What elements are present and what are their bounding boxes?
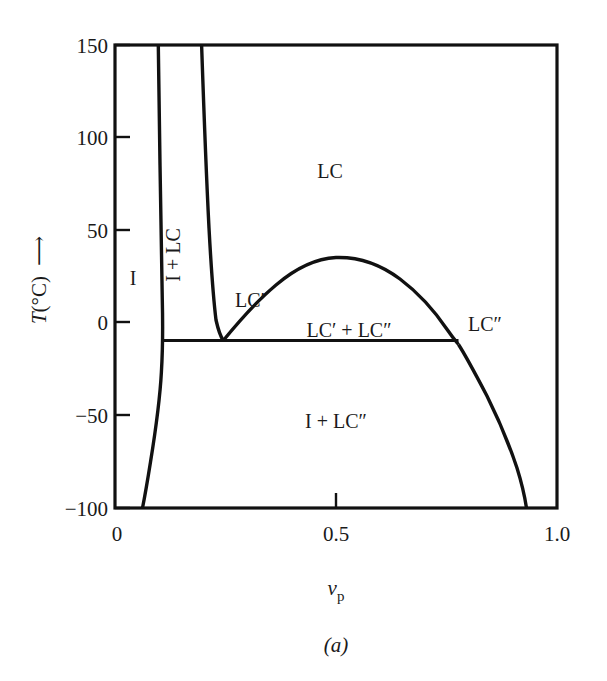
x-ticklabel-1point0: 1.0 bbox=[544, 522, 570, 546]
y-axis-title-arrow: ⟶ bbox=[27, 236, 51, 266]
y-axis-ticks bbox=[115, 45, 130, 508]
y-ticklabel-minus50: −50 bbox=[75, 404, 108, 428]
x-ticklabel-0: 0 bbox=[112, 522, 123, 546]
x-axis-title-subscript: p bbox=[337, 588, 345, 604]
curve-isotropic-right-binodal bbox=[202, 45, 224, 341]
phase-diagram-figure: 150 100 50 0 −50 −100 0 0.5 1.0 T(°C)⟶ v… bbox=[0, 0, 607, 681]
phase-diagram-plot: 150 100 50 0 −50 −100 0 0.5 1.0 T(°C)⟶ v… bbox=[0, 0, 607, 681]
y-axis-tick-labels: 150 100 50 0 −50 −100 bbox=[65, 34, 108, 521]
region-label-lc: LC bbox=[317, 160, 343, 182]
region-label-i-plus-lc-group: I + LC bbox=[162, 228, 184, 282]
svg-text:T(°C)⟶: T(°C)⟶ bbox=[27, 236, 51, 324]
region-label-i: I bbox=[130, 267, 137, 289]
y-ticklabel-100: 100 bbox=[77, 126, 109, 150]
y-ticklabel-50: 50 bbox=[87, 219, 108, 243]
y-axis-title-unit: (°C) bbox=[27, 276, 51, 312]
y-ticklabel-minus100: −100 bbox=[65, 497, 108, 521]
region-label-i-plus-lc: I + LC bbox=[162, 228, 184, 282]
region-label-lc-prime-plus-lc-dprime: LC′ + LC″ bbox=[306, 319, 391, 341]
x-axis-title: vp bbox=[328, 576, 345, 604]
curve-right-descending-branch bbox=[459, 345, 527, 509]
y-ticklabel-0: 0 bbox=[98, 311, 109, 335]
y-ticklabel-150: 150 bbox=[77, 34, 109, 58]
y-axis-title: T(°C)⟶ bbox=[27, 236, 51, 324]
region-label-lc-dprime: LC″ bbox=[468, 313, 502, 335]
region-label-i-plus-lc-dprime: I + LC″ bbox=[305, 410, 367, 432]
region-label-lc-prime: LC′ bbox=[235, 289, 265, 311]
x-ticklabel-0point5: 0.5 bbox=[323, 522, 349, 546]
x-axis-tick-labels: 0 0.5 1.0 bbox=[112, 522, 570, 546]
figure-caption: (a) bbox=[324, 633, 349, 657]
curve-isotropic-left-binodal bbox=[143, 45, 163, 508]
